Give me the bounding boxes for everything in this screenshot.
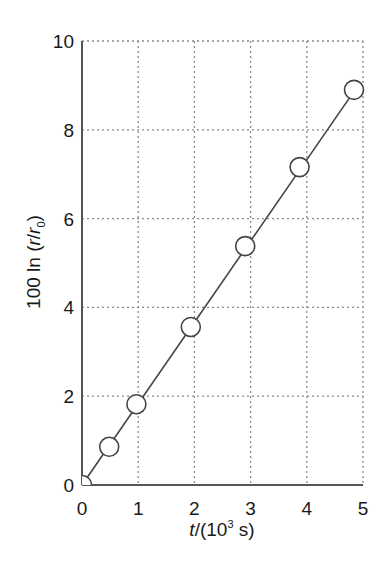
y-tick-label: 8: [63, 120, 74, 141]
x-tick-label: 2: [189, 498, 200, 519]
y-tick-label: 6: [63, 209, 74, 230]
x-tick-label: 3: [245, 498, 256, 519]
x-tick-label: 5: [358, 498, 369, 519]
y-tick-label: 2: [63, 386, 74, 407]
y-tick-label: 0: [63, 475, 74, 496]
regression-line: [82, 90, 355, 485]
y-tick-labels: 0246810: [53, 31, 75, 496]
y-axis-label: 100 ln (r/r0): [23, 215, 47, 309]
x-tick-label: 0: [77, 498, 88, 519]
x-axis-label: t/(103 s): [189, 518, 254, 540]
data-point-marker: [73, 476, 92, 495]
data-point-marker: [345, 80, 364, 99]
x-tick-label: 1: [133, 498, 144, 519]
x-tick-label: 4: [302, 498, 313, 519]
grid-lines: [82, 41, 363, 485]
y-tick-label: 4: [63, 297, 74, 318]
axes: [82, 41, 363, 485]
data-point-marker: [100, 437, 119, 456]
data-point-marker: [290, 158, 309, 177]
data-point-marker: [127, 395, 146, 414]
x-tick-labels: 012345: [77, 498, 369, 519]
fit-line: [82, 90, 355, 485]
y-tick-label: 10: [53, 31, 74, 52]
data-point-marker: [236, 237, 255, 256]
data-point-marker: [181, 317, 200, 336]
chart: 0246810 012345 t/(103 s) 100 ln (r/r0): [0, 0, 385, 574]
